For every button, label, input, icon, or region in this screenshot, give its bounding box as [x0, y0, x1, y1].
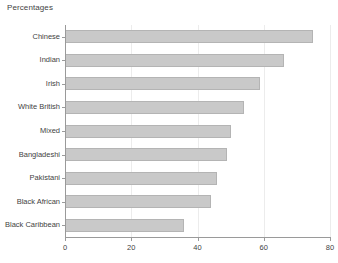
y-axis-tick [62, 107, 65, 108]
category-label: Bangladeshi [2, 150, 60, 159]
category-label: Black African [2, 197, 60, 206]
x-axis-tick [198, 238, 199, 241]
x-axis-tick [330, 238, 331, 241]
y-axis-tick [62, 155, 65, 156]
y-axis-tick [62, 84, 65, 85]
x-axis-tick-label: 40 [186, 243, 210, 252]
bar-fill [65, 172, 217, 185]
y-axis-tick [62, 225, 65, 226]
category-label: Black Caribbean [2, 220, 60, 229]
gridline [330, 25, 331, 237]
x-axis-tick [131, 238, 132, 241]
bar [65, 77, 260, 90]
bar-fill [65, 54, 284, 67]
bar-fill [65, 30, 313, 43]
bar [65, 219, 184, 232]
category-label: Indian [2, 55, 60, 64]
x-axis-tick [264, 238, 265, 241]
bar [65, 101, 244, 114]
bar [65, 148, 227, 161]
category-axis-labels: ChineseIndianIrishWhite BritishMixedBang… [0, 0, 60, 263]
category-label: White British [2, 102, 60, 111]
bar-fill [65, 148, 227, 161]
bar-fill [65, 101, 244, 114]
y-axis-tick [62, 60, 65, 61]
category-label: Chinese [2, 32, 60, 41]
x-axis-tick-label: 20 [119, 243, 143, 252]
y-axis-line [65, 25, 66, 238]
x-axis-tick-label: 80 [318, 243, 338, 252]
bar [65, 30, 313, 43]
bar-fill [65, 77, 260, 90]
y-axis-tick [62, 202, 65, 203]
category-label: Mixed [2, 126, 60, 135]
bar-fill [65, 219, 184, 232]
x-axis-tick [65, 238, 66, 241]
bar [65, 195, 211, 208]
category-label: Pakistani [2, 173, 60, 182]
category-label: Irish [2, 79, 60, 88]
y-axis-tick [62, 37, 65, 38]
bar [65, 54, 284, 67]
y-axis-tick [62, 131, 65, 132]
bar-fill [65, 125, 231, 138]
bar [65, 125, 231, 138]
bar-chart: Percentages ChineseIndianIrishWhite Brit… [0, 0, 338, 263]
bar [65, 172, 217, 185]
y-axis-tick [62, 178, 65, 179]
x-axis-tick-label: 0 [53, 243, 77, 252]
bar-fill [65, 195, 211, 208]
plot-area [65, 25, 330, 237]
x-axis-tick-label: 60 [252, 243, 276, 252]
